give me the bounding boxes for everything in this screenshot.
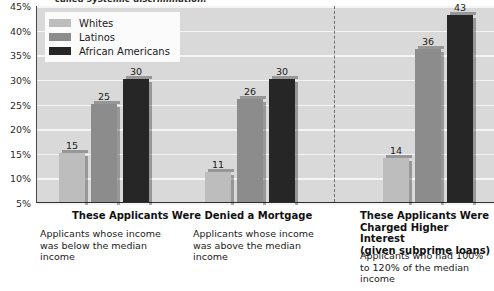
bar-shadow-right [117, 107, 120, 206]
bar-fill [205, 172, 231, 202]
clipped-caption: called systemic discrimination. [55, 0, 207, 4]
y-axis-tick-label: 40% [10, 25, 31, 36]
bar: 26 [237, 99, 263, 202]
bar-shadow-right [441, 52, 444, 205]
legend-label: Latinos [79, 32, 115, 43]
axis-labels: These Applicants Were Denied a Mortgage … [0, 206, 494, 291]
y-axis: 45%40%35%30%25%20%15%10%5% [0, 6, 34, 203]
bar-fill [59, 153, 85, 202]
bar: 11 [205, 172, 231, 202]
bar-fill [123, 79, 149, 202]
legend-swatch [49, 19, 71, 27]
bar-value-label: 14 [390, 145, 402, 156]
bar-value-label: 26 [244, 86, 256, 97]
bar-fill [269, 79, 295, 202]
legend-item: Latinos [49, 30, 170, 44]
bar-value-label: 11 [212, 159, 224, 170]
bar-fill [383, 158, 409, 202]
bar: 14 [383, 158, 409, 202]
y-axis-tick-label: 35% [10, 50, 31, 61]
bar-shadow-right [409, 161, 412, 205]
bar-shadow-right [231, 175, 234, 205]
bar-fill [91, 104, 117, 203]
group-label-below-median: Applicants whose income was below the me… [40, 228, 180, 263]
bar-shadow-right [149, 82, 152, 205]
bar: 30 [269, 79, 295, 202]
legend: WhitesLatinosAfrican Americans [45, 12, 180, 62]
bar-value-label: 30 [130, 66, 142, 77]
bar-value-label: 43 [454, 2, 466, 13]
legend-label: Whites [79, 18, 113, 29]
bar-fill [415, 49, 441, 202]
legend-swatch [49, 47, 71, 55]
legend-swatch [49, 33, 71, 41]
legend-label: African Americans [79, 46, 170, 57]
legend-item: African Americans [49, 44, 170, 58]
y-axis-tick-label: 15% [10, 148, 31, 159]
y-axis-tick-label: 20% [10, 124, 31, 135]
bar-fill [447, 15, 473, 202]
bar: 25 [91, 104, 117, 203]
bar-shadow-right [85, 156, 88, 205]
right-title-line-2: Charged Higher Interest [360, 222, 449, 245]
gridline [37, 6, 494, 8]
right-title-line-1: These Applicants Were [360, 210, 489, 221]
bar-value-label: 30 [276, 66, 288, 77]
y-axis-tick-label: 25% [10, 99, 31, 110]
bar-shadow-right [473, 18, 476, 205]
bar: 30 [123, 79, 149, 202]
y-axis-tick-label: 45% [10, 1, 31, 12]
bar-shadow-right [295, 82, 298, 205]
section-title-denied: These Applicants Were Denied a Mortgage [72, 210, 322, 222]
group-label-above-median: Applicants whose income was above the me… [193, 228, 333, 263]
section-divider [334, 6, 335, 202]
bar-value-label: 15 [66, 140, 78, 151]
bar-fill [237, 99, 263, 202]
group-label-subprime: Applicants who had 100% to 120% of the m… [360, 250, 494, 285]
bar: 43 [447, 15, 473, 202]
y-axis-tick-label: 10% [10, 173, 31, 184]
y-axis-tick-label: 30% [10, 74, 31, 85]
bar-value-label: 25 [98, 91, 110, 102]
bar-shadow-right [263, 102, 266, 205]
bar: 15 [59, 153, 85, 202]
bar: 36 [415, 49, 441, 202]
legend-item: Whites [49, 16, 170, 30]
bar-value-label: 36 [422, 36, 434, 47]
